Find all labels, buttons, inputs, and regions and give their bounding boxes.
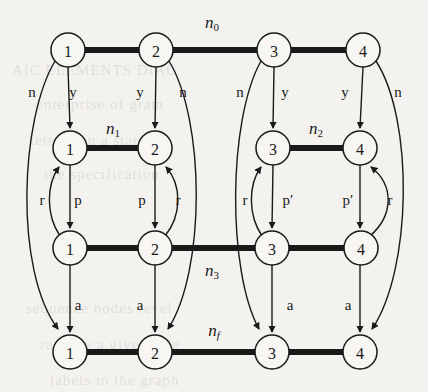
transition-arrow bbox=[236, 61, 261, 329]
node-label: 1 bbox=[66, 241, 74, 258]
node-label: 2 bbox=[151, 141, 159, 158]
row-name-label: nf bbox=[208, 321, 222, 342]
graph-node[interactable]: 1 bbox=[53, 231, 87, 265]
row-name-label: n0 bbox=[205, 13, 220, 34]
node-label: 2 bbox=[152, 43, 160, 60]
edge-label: p bbox=[74, 192, 82, 208]
edge-label: n bbox=[236, 84, 244, 100]
edge-label: a bbox=[287, 297, 294, 313]
transition-arrow bbox=[251, 167, 262, 236]
graph-node[interactable]: 2 bbox=[139, 33, 173, 67]
node-label: 2 bbox=[151, 241, 159, 258]
edge-label: p bbox=[138, 192, 146, 208]
graph-node[interactable]: 4 bbox=[344, 231, 378, 265]
node-label: 4 bbox=[359, 43, 367, 60]
edge-label: p′ bbox=[283, 192, 294, 208]
graph-node[interactable]: 4 bbox=[343, 335, 377, 369]
node-label: 4 bbox=[356, 345, 364, 362]
edge-label: a bbox=[137, 297, 144, 313]
edge-label: n bbox=[28, 84, 36, 100]
transition-arrow bbox=[155, 67, 156, 128]
node-layer: 1234123412341234 bbox=[51, 33, 380, 369]
graph-node[interactable]: 3 bbox=[255, 231, 289, 265]
edge-label: r bbox=[388, 192, 393, 208]
edge-label: r bbox=[176, 192, 181, 208]
edge-label: n bbox=[179, 84, 187, 100]
transition-arrow bbox=[168, 61, 196, 329]
node-label: 3 bbox=[270, 43, 278, 60]
node-graph: 1234123412341234 nyynnyynrpprrp′p′raaaa … bbox=[0, 0, 428, 392]
edge-label: a bbox=[345, 297, 352, 313]
graph-node[interactable]: 1 bbox=[53, 335, 87, 369]
graph-node[interactable]: 4 bbox=[343, 131, 377, 165]
node-label: 4 bbox=[357, 241, 365, 258]
node-label: 1 bbox=[66, 141, 74, 158]
row-name-label: n3 bbox=[205, 261, 220, 282]
graph-node[interactable]: 2 bbox=[138, 335, 172, 369]
row-name-label-layer: n0n1n2n3nf bbox=[106, 13, 323, 342]
node-label: 1 bbox=[64, 43, 72, 60]
diagram-canvas: AIC ELEMENTS DIAGenterprise of gramtetra… bbox=[0, 0, 428, 392]
transition-arrow bbox=[272, 165, 273, 228]
edge-label: p′ bbox=[343, 192, 354, 208]
row-name-label: n1 bbox=[106, 119, 120, 140]
graph-node[interactable]: 3 bbox=[256, 131, 290, 165]
edge-label: a bbox=[75, 297, 82, 313]
graph-node[interactable]: 4 bbox=[346, 33, 380, 67]
graph-node[interactable]: 2 bbox=[138, 231, 172, 265]
node-label: 4 bbox=[356, 141, 364, 158]
node-label: 1 bbox=[66, 345, 74, 362]
transition-arrow bbox=[370, 167, 388, 236]
graph-node[interactable]: 3 bbox=[255, 335, 289, 369]
edge-label: r bbox=[40, 192, 45, 208]
node-label: 3 bbox=[269, 141, 277, 158]
graph-node[interactable]: 1 bbox=[53, 131, 87, 165]
graph-node[interactable]: 1 bbox=[51, 33, 85, 67]
node-label: 3 bbox=[268, 241, 276, 258]
node-label: 3 bbox=[268, 345, 276, 362]
graph-node[interactable]: 2 bbox=[138, 131, 172, 165]
edge-label: r bbox=[243, 192, 248, 208]
node-label: 2 bbox=[151, 345, 159, 362]
edge-label: y bbox=[281, 84, 289, 100]
transition-arrow bbox=[360, 67, 363, 128]
transition-arrow bbox=[273, 67, 274, 128]
edge-label: y bbox=[341, 84, 349, 100]
transition-arrow bbox=[49, 167, 60, 236]
edge-label: y bbox=[69, 84, 77, 100]
edge-label: n bbox=[394, 84, 402, 100]
row-name-label: n2 bbox=[309, 119, 323, 140]
graph-node[interactable]: 3 bbox=[257, 33, 291, 67]
thick-edge-layer bbox=[85, 50, 346, 352]
edge-label: y bbox=[136, 84, 144, 100]
